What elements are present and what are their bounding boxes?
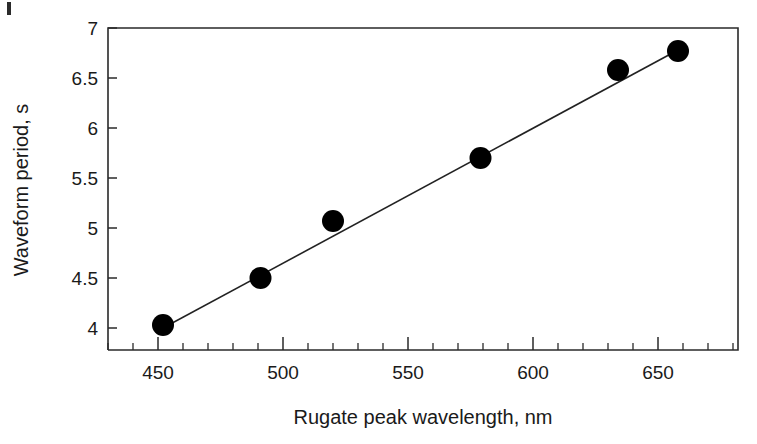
y-axis-title: Waveform period, s (10, 104, 32, 277)
figure-root: 44.555.566.57 450500550600650 Rugate pea… (0, 0, 757, 444)
x-tick-label-500: 500 (267, 362, 299, 383)
scatter-plot: 44.555.566.57 450500550600650 Rugate pea… (0, 0, 757, 444)
x-axis-title: Rugate peak wavelength, nm (293, 406, 552, 428)
data-point (470, 147, 492, 169)
plot-frame (108, 28, 738, 350)
y-tick-label-6.5: 6.5 (72, 68, 98, 89)
y-tick-label-5: 5 (87, 218, 98, 239)
data-point (607, 59, 629, 81)
y-tick-label-7: 7 (87, 18, 98, 39)
data-point (152, 314, 174, 336)
trend-line (163, 50, 678, 328)
y-tick-label-4: 4 (87, 318, 98, 339)
y-axis-ticks (108, 28, 117, 328)
data-point (250, 267, 272, 289)
data-point (667, 40, 689, 62)
x-tick-label-600: 600 (517, 362, 549, 383)
x-axis-minor-ticks (108, 343, 733, 350)
y-tick-label-4.5: 4.5 (72, 268, 98, 289)
x-tick-label-650: 650 (642, 362, 674, 383)
x-tick-label-450: 450 (142, 362, 174, 383)
data-point (322, 210, 344, 232)
x-axis-tick-labels: 450500550600650 (142, 362, 674, 383)
y-axis-tick-labels: 44.555.566.57 (72, 18, 99, 339)
y-tick-label-6: 6 (87, 118, 98, 139)
y-tick-label-5.5: 5.5 (72, 168, 98, 189)
x-tick-label-550: 550 (392, 362, 424, 383)
data-point-group (152, 40, 689, 336)
